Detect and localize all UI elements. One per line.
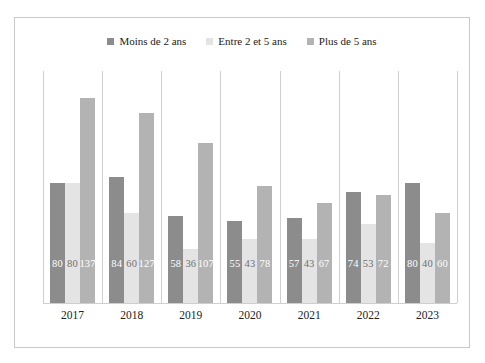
- legend-swatch-series-3: [307, 38, 314, 45]
- bar-2021-series-3[interactable]: 67: [317, 203, 332, 303]
- chart-figure-frame: Moins de 2 ans Entre 2 et 5 ans Plus de …: [14, 17, 470, 348]
- x-tick-2022: 2022: [339, 303, 398, 327]
- bar-2021-series-2[interactable]: 43: [302, 239, 317, 303]
- bar-2018-series-3[interactable]: 127: [139, 113, 154, 303]
- legend-item-plus-de-5-ans[interactable]: Plus de 5 ans: [307, 36, 377, 47]
- legend-item-entre-2-et-5-ans[interactable]: Entre 2 et 5 ans: [206, 36, 286, 47]
- bar-group-2020: 554378: [220, 71, 279, 303]
- x-tick-2020: 2020: [220, 303, 279, 327]
- bar-2017-series-1[interactable]: 80: [50, 183, 65, 303]
- bar-group-2019: 5836107: [161, 71, 220, 303]
- x-tick-2017: 2017: [43, 303, 102, 327]
- chart-legend: Moins de 2 ans Entre 2 et 5 ans Plus de …: [15, 36, 469, 47]
- x-tick-2023: 2023: [398, 303, 457, 327]
- bar-2019-series-3[interactable]: 107: [198, 143, 213, 303]
- bar-2022-series-2[interactable]: 53: [361, 224, 376, 303]
- legend-swatch-series-2: [206, 38, 213, 45]
- bar-value-label: 78: [260, 259, 271, 304]
- bar-value-label: 137: [79, 259, 95, 304]
- chart-bars-layer: 8080137846012758361075543785743677453728…: [43, 71, 457, 303]
- bar-value-label: 36: [185, 259, 196, 304]
- bar-2020-series-2[interactable]: 43: [242, 239, 257, 303]
- bar-group-2022: 745372: [339, 71, 398, 303]
- legend-item-moins-de-2-ans[interactable]: Moins de 2 ans: [107, 36, 186, 47]
- x-tick-2019: 2019: [161, 303, 220, 327]
- bar-value-label: 53: [363, 259, 374, 304]
- bar-value-label: 107: [198, 259, 214, 304]
- bar-2022-series-1[interactable]: 74: [346, 192, 361, 303]
- bar-value-label: 55: [230, 259, 241, 304]
- legend-label-series-2: Entre 2 et 5 ans: [218, 36, 286, 47]
- bar-2017-series-3[interactable]: 137: [80, 98, 95, 303]
- bar-2021-series-1[interactable]: 57: [287, 218, 302, 303]
- bar-group-2017: 8080137: [43, 71, 102, 303]
- bar-2023-series-3[interactable]: 60: [435, 213, 450, 303]
- bar-2020-series-1[interactable]: 55: [227, 221, 242, 303]
- bar-value-label: 43: [304, 259, 315, 304]
- bar-2019-series-1[interactable]: 58: [168, 216, 183, 303]
- bar-2018-series-2[interactable]: 60: [124, 213, 139, 303]
- bar-value-label: 67: [319, 259, 330, 304]
- bar-2020-series-3[interactable]: 78: [257, 186, 272, 303]
- legend-swatch-series-1: [107, 38, 114, 45]
- bar-2022-series-3[interactable]: 72: [376, 195, 391, 303]
- bar-2017-series-2[interactable]: 80: [65, 183, 80, 303]
- bar-value-label: 40: [422, 259, 433, 304]
- legend-label-series-3: Plus de 5 ans: [319, 36, 377, 47]
- bar-2019-series-2[interactable]: 36: [183, 249, 198, 303]
- x-tick-2018: 2018: [102, 303, 161, 327]
- bar-value-label: 80: [407, 259, 418, 304]
- bar-value-label: 127: [139, 259, 155, 304]
- bar-2023-series-2[interactable]: 40: [420, 243, 435, 303]
- chart-plot-area: 8080137846012758361075543785743677453728…: [43, 71, 457, 303]
- bar-value-label: 57: [289, 259, 300, 304]
- bar-value-label: 60: [126, 259, 137, 304]
- bar-group-2018: 8460127: [102, 71, 161, 303]
- bar-value-label: 58: [170, 259, 181, 304]
- bar-value-label: 80: [67, 259, 78, 304]
- bar-value-label: 72: [378, 259, 389, 304]
- bar-value-label: 80: [52, 259, 63, 304]
- x-tick-2021: 2021: [280, 303, 339, 327]
- gridline-7: [457, 71, 458, 303]
- bar-value-label: 60: [437, 259, 448, 304]
- bar-group-2021: 574367: [280, 71, 339, 303]
- legend-label-series-1: Moins de 2 ans: [119, 36, 186, 47]
- bar-value-label: 84: [111, 259, 122, 304]
- bar-value-label: 74: [348, 259, 359, 304]
- bar-2023-series-1[interactable]: 80: [405, 183, 420, 303]
- bar-group-2023: 804060: [398, 71, 457, 303]
- bar-2018-series-1[interactable]: 84: [109, 177, 124, 303]
- bar-value-label: 43: [245, 259, 256, 304]
- x-axis-tick-labels: 2017201820192020202120222023: [43, 303, 457, 327]
